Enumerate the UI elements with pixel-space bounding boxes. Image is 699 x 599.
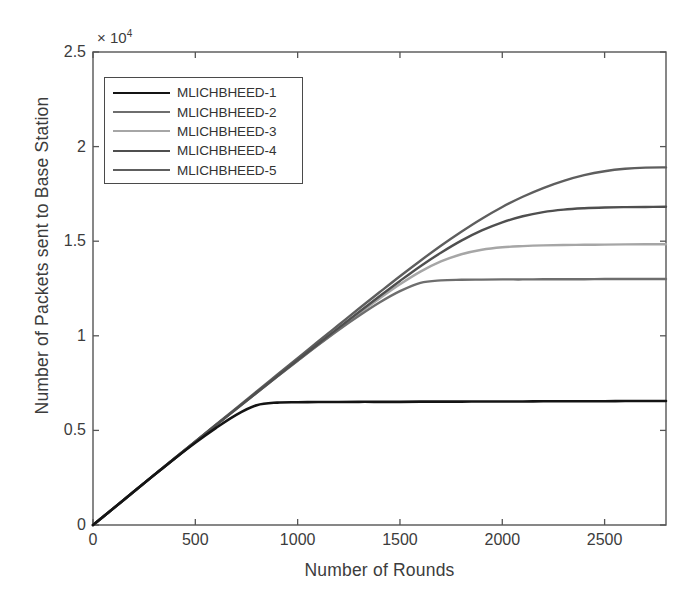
legend-item-3[interactable]: MLICHBHEED-3 [105,122,302,141]
figure-container: Number of Packets sent to Base Station N… [0,0,699,599]
legend-item-label: MLICHBHEED-4 [177,143,276,158]
legend-item-label: MLICHBHEED-3 [177,124,276,139]
series-line-mlichbheed-5 [93,167,666,525]
legend-item-5[interactable]: MLICHBHEED-5 [105,161,302,180]
legend-line-swatch [113,130,170,132]
legend-item-label: MLICHBHEED-1 [177,85,276,100]
legend-item-1[interactable]: MLICHBHEED-1 [105,83,302,102]
series-line-mlichbheed-4 [93,207,666,525]
legend-item-2[interactable]: MLICHBHEED-2 [105,102,302,121]
series-line-mlichbheed-1 [93,401,666,525]
legend-item-4[interactable]: MLICHBHEED-4 [105,141,302,160]
legend-item-label: MLICHBHEED-5 [177,163,276,178]
legend: MLICHBHEED-1MLICHBHEED-2MLICHBHEED-3MLIC… [104,77,303,184]
legend-item-label: MLICHBHEED-2 [177,105,276,120]
legend-line-swatch [113,169,170,171]
legend-line-swatch [113,92,170,94]
series-line-mlichbheed-3 [93,244,666,525]
legend-line-swatch [113,150,170,152]
legend-line-swatch [113,111,170,113]
